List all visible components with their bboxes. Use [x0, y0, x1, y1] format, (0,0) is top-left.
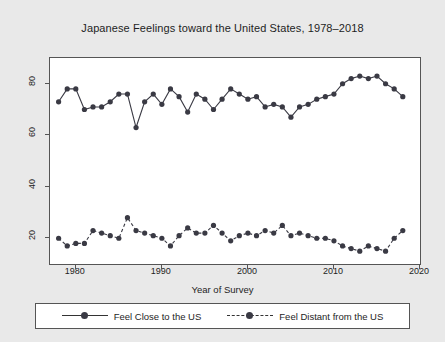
data-point — [392, 236, 397, 241]
data-point — [56, 236, 61, 241]
legend-swatch-solid-line-icon — [62, 310, 108, 322]
data-point — [228, 238, 233, 243]
data-point — [202, 231, 207, 236]
data-point — [228, 86, 233, 91]
data-point — [280, 223, 285, 228]
data-point — [202, 97, 207, 102]
data-point — [314, 97, 319, 102]
data-point — [185, 109, 190, 114]
data-point — [151, 233, 156, 238]
data-point — [185, 225, 190, 230]
data-point — [400, 94, 405, 99]
data-point — [82, 241, 87, 246]
data-point — [90, 228, 95, 233]
data-point — [219, 231, 224, 236]
data-point — [108, 99, 113, 104]
data-point — [211, 107, 216, 112]
data-point — [366, 76, 371, 81]
data-point — [108, 233, 113, 238]
data-point — [392, 86, 397, 91]
data-point — [176, 94, 181, 99]
data-point — [349, 246, 354, 251]
chart-figure: Japanese Feelings toward the United Stat… — [0, 0, 445, 342]
legend-label-close: Feel Close to the US — [114, 311, 202, 322]
data-point — [125, 91, 130, 96]
data-point — [142, 99, 147, 104]
data-point — [73, 86, 78, 91]
data-point — [245, 231, 250, 236]
data-point — [219, 97, 224, 102]
data-point — [297, 104, 302, 109]
data-point — [400, 228, 405, 233]
data-point — [357, 73, 362, 78]
data-point — [133, 228, 138, 233]
data-point — [288, 115, 293, 120]
data-point — [340, 243, 345, 248]
data-point — [271, 102, 276, 107]
data-point — [194, 91, 199, 96]
data-point — [151, 91, 156, 96]
data-point — [254, 233, 259, 238]
legend-label-distant: Feel Distant from the US — [279, 311, 383, 322]
data-point — [99, 104, 104, 109]
data-point — [159, 236, 164, 241]
legend-item-close[interactable]: Feel Close to the US — [62, 310, 202, 322]
data-point — [314, 236, 319, 241]
data-point — [323, 236, 328, 241]
data-point — [168, 86, 173, 91]
data-point — [176, 233, 181, 238]
data-point — [263, 228, 268, 233]
data-point — [65, 243, 70, 248]
data-point — [116, 236, 121, 241]
chart-legend: Feel Close to the US Feel Distant from t… — [35, 303, 410, 329]
data-point — [82, 107, 87, 112]
data-point — [374, 246, 379, 251]
data-point — [349, 76, 354, 81]
data-point — [125, 215, 130, 220]
data-point — [366, 243, 371, 248]
data-point — [133, 125, 138, 130]
data-point — [331, 238, 336, 243]
data-point — [340, 81, 345, 86]
data-point — [254, 94, 259, 99]
legend-item-distant[interactable]: Feel Distant from the US — [227, 310, 383, 322]
plot-area — [49, 57, 421, 265]
data-point — [280, 104, 285, 109]
data-point — [90, 104, 95, 109]
data-point — [306, 102, 311, 107]
data-point — [323, 94, 328, 99]
data-point — [116, 91, 121, 96]
data-point — [142, 231, 147, 236]
data-point — [288, 233, 293, 238]
data-point — [245, 97, 250, 102]
data-point — [237, 233, 242, 238]
data-point — [374, 73, 379, 78]
data-point — [56, 99, 61, 104]
data-point — [159, 102, 164, 107]
series-canvas — [50, 58, 420, 264]
data-point — [263, 104, 268, 109]
data-point — [168, 243, 173, 248]
data-point — [383, 81, 388, 86]
data-point — [297, 231, 302, 236]
data-point — [383, 249, 388, 254]
data-point — [306, 233, 311, 238]
data-point — [194, 231, 199, 236]
legend-swatch-dashed-line-icon — [227, 310, 273, 322]
data-point — [237, 91, 242, 96]
data-point — [99, 231, 104, 236]
data-point — [211, 223, 216, 228]
data-point — [73, 241, 78, 246]
data-point — [271, 231, 276, 236]
data-point — [357, 249, 362, 254]
data-point — [65, 86, 70, 91]
data-point — [331, 91, 336, 96]
